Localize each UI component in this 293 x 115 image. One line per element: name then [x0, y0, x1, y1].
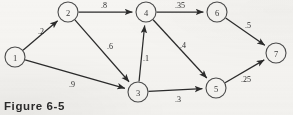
- edge-1-to-3: [25, 60, 125, 88]
- edge-weight-1-3: .9: [69, 80, 75, 89]
- edge-weight-4-6: .35: [175, 1, 185, 10]
- figure-container: .2.9.8.6.1.3.35.4.25.5 1234567 Figure 6-…: [0, 0, 293, 115]
- node-6[interactable]: 6: [207, 2, 227, 22]
- edges-layer: [23, 12, 265, 91]
- edge-weight-2-4: .8: [101, 1, 107, 10]
- edge-weight-2-3: .6: [107, 42, 113, 51]
- edge-weight-3-4: .1: [143, 54, 149, 63]
- edge-weight-5-7: .25: [241, 75, 251, 84]
- figure-caption: Figure 6-5: [4, 100, 65, 112]
- node-7[interactable]: 7: [266, 43, 286, 63]
- edge-2-to-3: [75, 20, 129, 82]
- edge-weight-6-7: .5: [245, 21, 251, 30]
- edge-1-to-2: [23, 21, 58, 50]
- node-5[interactable]: 5: [206, 78, 226, 98]
- node-4[interactable]: 4: [136, 2, 156, 22]
- node-2[interactable]: 2: [58, 2, 78, 22]
- node-label-3: 3: [136, 88, 140, 98]
- nodes-layer: 1234567: [5, 2, 286, 102]
- node-label-1: 1: [13, 53, 17, 63]
- network-diagram: .2.9.8.6.1.3.35.4.25.5 1234567: [0, 0, 293, 115]
- edge-3-to-5: [148, 89, 202, 92]
- node-label-7: 7: [274, 49, 278, 59]
- node-3[interactable]: 3: [128, 82, 148, 102]
- node-1[interactable]: 1: [5, 47, 25, 67]
- edge-weight-3-5: .3: [175, 95, 181, 104]
- node-label-2: 2: [66, 8, 70, 18]
- edge-weight-1-2: .2: [38, 27, 44, 36]
- edge-weight-4-5: .4: [180, 41, 186, 50]
- node-label-5: 5: [214, 84, 218, 94]
- node-label-6: 6: [215, 8, 219, 18]
